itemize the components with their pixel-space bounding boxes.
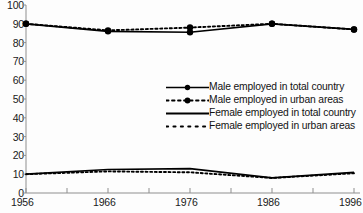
x-tick-1966: 1966	[93, 196, 116, 208]
legend-item-female-urban: Female employed in urban areas	[166, 119, 363, 132]
legend-item-male-urban: Male employed in urban areas	[166, 93, 363, 106]
legend-sample-solid-line-with-marker	[166, 80, 209, 93]
x-tick-1996: 1996	[339, 196, 362, 208]
legend-sample-dashed-line-with-marker	[166, 93, 209, 106]
legend-item-female-total: Female employed in total country	[166, 106, 363, 119]
series-line-female-urban	[26, 171, 354, 178]
series-line-female-total	[26, 169, 354, 178]
legend-item-male-total: Male employed in total country	[166, 80, 363, 93]
x-tick-1956: 1956	[11, 196, 34, 208]
y-axis-ticks	[22, 5, 26, 193]
x-axis-ticks	[26, 188, 354, 193]
x-tick-1976: 1976	[175, 196, 198, 208]
x-axis-tick-labels: 1956 1966 1976 1986 1996	[0, 196, 363, 213]
chart-screenshot: 100 90 80 70 60 50 40 30 20 10 0	[0, 0, 363, 213]
legend-sample-dotted-line	[166, 119, 209, 132]
legend-sample-solid-line	[166, 106, 209, 119]
x-tick-1986: 1986	[257, 196, 280, 208]
legend-label-female-urban: Female employed in urban areas	[209, 119, 355, 132]
legend-label-male-urban: Male employed in urban areas	[209, 93, 343, 106]
chart-legend: Male employed in total country Male empl…	[166, 80, 363, 132]
legend-label-female-total: Female employed in total country	[209, 106, 356, 119]
legend-label-male-total: Male employed in total country	[209, 80, 344, 93]
